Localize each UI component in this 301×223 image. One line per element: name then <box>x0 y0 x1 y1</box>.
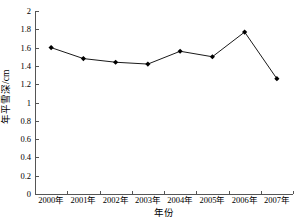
x-axis-title: 年份 <box>35 209 293 219</box>
y-tick-label: 1 <box>27 98 31 107</box>
data-series-line <box>35 11 293 194</box>
y-tick-label: 1.6 <box>20 43 31 52</box>
y-tick-label: 2 <box>27 7 31 16</box>
y-axis-title: 年平雪深/cm <box>0 0 14 194</box>
data-point-marker <box>49 45 54 50</box>
x-tick-label: 2004年 <box>167 196 193 205</box>
y-tick-label: 1.4 <box>20 62 31 71</box>
x-tick-label: 2001年 <box>70 196 96 205</box>
y-tick-label: 1.2 <box>20 80 31 89</box>
y-tick-label: 0.2 <box>20 171 31 180</box>
y-axis-title-text: 年平雪深/cm <box>2 70 12 124</box>
x-tick-label: 2007年 <box>264 196 290 205</box>
y-tick-label: 0.6 <box>20 135 31 144</box>
data-point-marker <box>81 56 86 61</box>
y-tick-label: 0.4 <box>20 153 31 162</box>
x-tick-label: 2000年 <box>38 196 64 205</box>
series-polyline <box>51 32 277 79</box>
data-point-marker <box>113 60 118 65</box>
x-tick-label: 2002年 <box>103 196 129 205</box>
y-tick-label: 1.8 <box>20 25 31 34</box>
y-axis-tick-labels: 00.20.40.60.811.21.41.61.82 <box>13 0 33 200</box>
data-point-marker <box>145 61 150 66</box>
data-point-marker <box>178 49 183 54</box>
x-tick-label: 2005年 <box>199 196 225 205</box>
x-tick-label: 2006年 <box>232 196 258 205</box>
y-tick-label: 0.8 <box>20 117 31 126</box>
y-tick-label: 0 <box>27 190 31 199</box>
x-tick-label: 2003年 <box>135 196 161 205</box>
plot-area <box>35 11 293 194</box>
line-chart-figure: 年平雪深/cm 00.20.40.60.811.21.41.61.82 2000… <box>0 0 301 223</box>
